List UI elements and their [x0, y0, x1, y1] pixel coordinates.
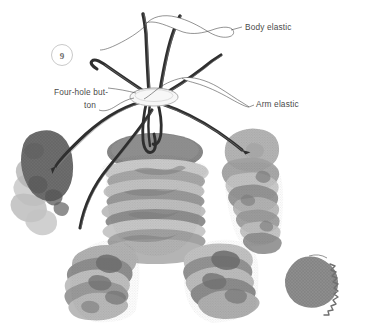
illustration-canvas: 9 — [0, 0, 381, 323]
step-number-label: 9 — [60, 51, 65, 61]
arm-elastic-label: Arm elastic — [256, 99, 299, 109]
body-elastic-label: Body elastic — [245, 22, 292, 32]
four-hole-button-label-line1: Four-hole but- — [54, 87, 108, 97]
four-hole-button-label-line2: ton — [84, 100, 96, 110]
four-hole-button — [130, 88, 178, 107]
craft-step-illustration: 9 — [0, 0, 381, 323]
